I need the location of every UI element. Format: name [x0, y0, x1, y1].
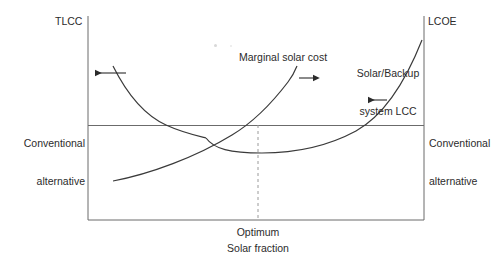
- conventional-right-line-2: alternative: [429, 175, 504, 188]
- solar-backup-line-2: system LCC: [350, 105, 426, 118]
- conventional-left-line-2: alternative: [0, 175, 85, 188]
- chart-figure: TLCC LCOE Conventional alternative Conve…: [0, 0, 504, 258]
- conventional-left-line-1: Conventional: [0, 137, 85, 150]
- axis-label-solar-fraction: Solar fraction: [198, 242, 318, 255]
- curve-marginal-solar-cost: [113, 66, 297, 181]
- conventional-right-line-1: Conventional: [429, 137, 504, 150]
- axis-label-lcoe: LCOE: [428, 15, 457, 28]
- label-solar-backup-system-lcc: Solar/Backup system LCC: [350, 42, 426, 142]
- label-conventional-alternative-right: Conventional alternative: [429, 112, 504, 212]
- label-marginal-solar-cost: Marginal solar cost: [239, 51, 327, 64]
- scan-speck: [230, 45, 232, 47]
- label-optimum: Optimum: [198, 226, 318, 239]
- axis-label-tlcc: TLCC: [55, 15, 82, 28]
- label-conventional-alternative-left: Conventional alternative: [0, 112, 85, 212]
- scan-speck: [214, 44, 217, 47]
- solar-backup-line-1: Solar/Backup: [350, 67, 426, 80]
- curve-tlcc-decreasing: [113, 66, 206, 138]
